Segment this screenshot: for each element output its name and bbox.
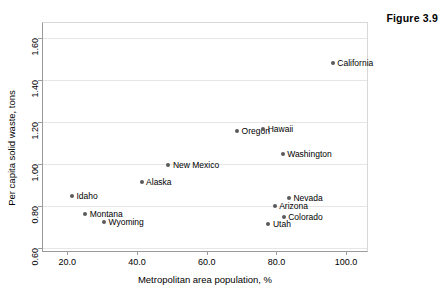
y-axis-tick-label: 0.80 (29, 206, 41, 224)
data-point[interactable] (235, 129, 239, 133)
data-point-label: Wyoming (108, 217, 143, 227)
data-point-label: Alaska (146, 177, 172, 187)
x-axis-tick (137, 251, 138, 255)
x-axis-tick (67, 251, 68, 255)
data-point[interactable] (102, 220, 106, 224)
data-point[interactable] (331, 61, 335, 65)
y-axis-tick-label: 1.00 (29, 164, 41, 182)
data-point[interactable] (83, 212, 87, 216)
x-axis-tick (276, 251, 277, 255)
data-point-label: Colorado (288, 212, 323, 222)
plot-area: 0.600.801.001.201.401.6020.040.060.080.0… (43, 23, 367, 251)
data-point-label: Utah (273, 219, 291, 229)
data-point-label: Arizona (279, 201, 308, 211)
x-axis-title: Metropolitan area population, % (42, 274, 368, 285)
data-point[interactable] (273, 204, 277, 208)
data-point[interactable] (287, 196, 291, 200)
data-point[interactable] (266, 222, 270, 226)
data-point-label: Oregon (242, 126, 270, 136)
data-point-label: Hawaii (268, 124, 294, 134)
data-point[interactable] (70, 194, 74, 198)
x-axis-tick (207, 251, 208, 255)
x-axis-tick-label: 20.0 (59, 257, 77, 267)
y-axis-tick-label: 0.60 (29, 248, 41, 266)
x-axis-tick (346, 251, 347, 255)
y-axis-tick-label: 1.20 (29, 122, 41, 140)
data-point-label: Washington (287, 149, 332, 159)
x-axis-tick-label: 40.0 (128, 257, 146, 267)
data-point[interactable] (261, 127, 265, 131)
gridline-horizontal (43, 38, 367, 39)
gridline-horizontal (43, 248, 367, 249)
figure-container: Figure 3.9 Per capita solid waste, tons … (0, 0, 444, 296)
y-axis-title: Per capita solid waste, tons (6, 53, 17, 243)
plot-frame: 0.600.801.001.201.401.6020.040.060.080.0… (42, 22, 368, 252)
gridline-horizontal (43, 122, 367, 123)
data-point-label: Idaho (76, 191, 97, 201)
x-axis-tick-label: 60.0 (198, 257, 216, 267)
y-axis-tick-label: 1.60 (29, 38, 41, 56)
data-point-label: New Mexico (173, 160, 219, 170)
figure-caption: Figure 3.9 (386, 12, 438, 24)
x-axis-tick-label: 100.0 (335, 257, 358, 267)
data-point[interactable] (166, 163, 170, 167)
data-point[interactable] (281, 152, 285, 156)
x-axis-tick-label: 80.0 (268, 257, 286, 267)
gridline-horizontal (43, 206, 367, 207)
y-axis-tick-label: 1.40 (29, 80, 41, 98)
data-point[interactable] (140, 180, 144, 184)
data-point-label: California (337, 58, 373, 68)
gridline-horizontal (43, 80, 367, 81)
